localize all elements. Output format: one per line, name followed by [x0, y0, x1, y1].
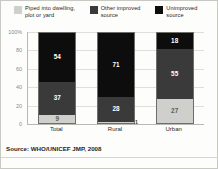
chart-legend: Piped into dwelling, plot or yard Other …: [1, 1, 218, 27]
bar-segment-urban-1[interactable]: 55: [157, 49, 193, 99]
legend-label-piped: Piped into dwelling, plot or yard: [25, 5, 86, 18]
y-axis-tick-60: 60: [16, 66, 22, 72]
bar-segment-total-1[interactable]: 37: [39, 82, 75, 115]
source-label: Source:: [6, 145, 29, 152]
bar-segment-total-2[interactable]: 54: [39, 33, 75, 82]
bar-series-container: 9375412871275518: [28, 32, 204, 124]
source-note: Source: WHO/UNICEF JMP, 2008: [6, 145, 102, 152]
x-axis-tick-rural: Rural: [96, 126, 134, 138]
legend-item-piped: Piped into dwelling, plot or yard: [14, 5, 86, 18]
legend-label-unimproved: Unimproved source: [166, 5, 213, 18]
legend-swatch-other-improved-icon: [90, 6, 98, 14]
bar-group-total[interactable]: 93754: [38, 32, 76, 124]
y-axis-tick-0: 0: [19, 121, 22, 127]
y-axis-tick-20: 20: [16, 103, 22, 109]
bar-segment-rural-1[interactable]: 28: [98, 97, 134, 122]
legend-label-other-improved: Other improved source: [101, 5, 152, 18]
bar-segment-total-0[interactable]: 9: [39, 115, 75, 123]
legend-item-other-improved: Other improved source: [90, 5, 152, 18]
bar-value-label: 18: [171, 38, 178, 44]
bar-group-urban[interactable]: 275518: [156, 32, 194, 124]
bar-value-label: 37: [54, 95, 61, 101]
y-axis-tick-40: 40: [16, 84, 22, 90]
bar-value-label: 27: [171, 108, 178, 114]
x-axis-tick-urban: Urban: [155, 126, 193, 138]
y-axis-tick-labels: 020406080100%: [1, 32, 25, 124]
bar-value-label: 54: [54, 54, 61, 60]
source-text: WHO/UNICEF JMP, 2008: [31, 145, 102, 152]
y-axis-tick-100: 100%: [8, 29, 22, 35]
bar-value-label: 55: [171, 71, 178, 77]
footer-divider: [1, 157, 218, 158]
legend-item-unimproved: Unimproved source: [155, 5, 213, 18]
y-axis-tick-80: 80: [16, 47, 22, 53]
x-axis-tick-labels: TotalRuralUrban: [27, 126, 203, 138]
bar-segment-urban-2[interactable]: 18: [157, 33, 193, 49]
bar-segment-rural-0[interactable]: 1: [98, 122, 134, 123]
bar-segment-urban-0[interactable]: 27: [157, 99, 193, 123]
bar-group-rural[interactable]: 12871: [97, 32, 135, 124]
bar-segment-rural-2[interactable]: 71: [98, 33, 134, 97]
legend-swatch-piped-icon: [14, 6, 22, 14]
bar-value-label: 71: [112, 62, 119, 68]
bar-value-label: 9: [56, 116, 60, 122]
plot-area: 9375412871275518: [27, 32, 204, 125]
bar-value-label: 1: [135, 120, 138, 125]
legend-swatch-unimproved-icon: [155, 6, 163, 14]
bar-value-label: 28: [112, 106, 119, 112]
chart-figure: Piped into dwelling, plot or yard Other …: [0, 0, 218, 169]
x-axis-tick-total: Total: [37, 126, 75, 138]
